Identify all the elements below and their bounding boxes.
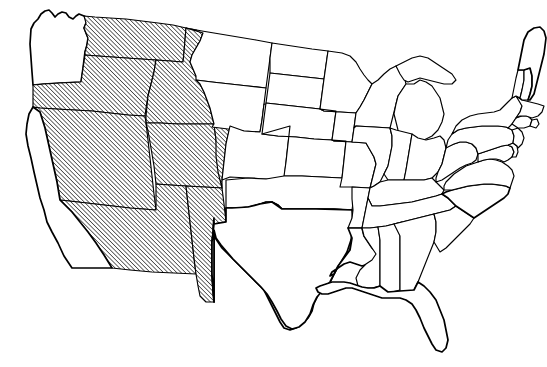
state-michigan-upper [396, 56, 456, 84]
state-rhode-island [530, 119, 539, 128]
state-georgia [394, 214, 436, 292]
state-oklahoma [226, 176, 356, 210]
state-washington-west [30, 10, 88, 85]
map-figure: Western United States highlighted region… [0, 0, 547, 367]
map-layer-states [26, 10, 546, 352]
state-utah [146, 123, 222, 188]
state-texas-body [212, 202, 353, 329]
state-washington-east [84, 16, 186, 62]
us-states-map [0, 0, 547, 367]
state-florida [316, 282, 448, 352]
